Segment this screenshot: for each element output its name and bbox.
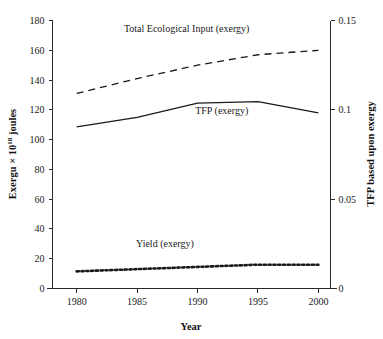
y-axis-title-tail: joules [7, 109, 18, 138]
left-tick-label: 20 [35, 253, 45, 264]
right-axis-ticks: 00.050.10.15 [331, 15, 357, 294]
left-tick-label: 160 [30, 45, 45, 56]
right-tick-label: 0.05 [339, 194, 357, 205]
left-tick-label: 100 [30, 134, 45, 145]
left-tick-label: 0 [40, 283, 45, 294]
y2-axis-title: TFP based upon exergy [365, 101, 376, 207]
series-group [77, 50, 319, 271]
left-tick-label: 120 [30, 104, 45, 115]
series-label: Total Ecological Input (exergy) [124, 23, 249, 35]
series-label: Yield (exergy) [136, 238, 194, 250]
y-axis-title: Exergu × 1018 joules [6, 109, 18, 199]
figure-container: 020406080100120140160180 00.050.10.15 19… [0, 0, 383, 339]
x-tick-label: 1980 [67, 296, 87, 307]
left-tick-label: 40 [35, 223, 45, 234]
left-tick-label: 80 [35, 164, 45, 175]
left-axis-ticks: 020406080100120140160180 [30, 15, 53, 294]
left-tick-label: 60 [35, 194, 45, 205]
right-tick-label: 0.1 [339, 104, 352, 115]
series-line [77, 50, 319, 93]
series-label: TFP (exergy) [195, 105, 248, 117]
x-axis-title: Year [181, 321, 202, 332]
line-chart: 020406080100120140160180 00.050.10.15 19… [0, 0, 383, 339]
y-axis-title-main: Exergu × 10 [7, 145, 18, 199]
right-tick-label: 0.15 [339, 15, 357, 26]
x-tick-label: 1990 [188, 296, 208, 307]
series-line [77, 265, 319, 272]
right-tick-label: 0 [339, 283, 344, 294]
x-tick-label: 1995 [248, 296, 268, 307]
x-tick-label: 1985 [127, 296, 147, 307]
left-tick-label: 140 [30, 75, 45, 86]
series-labels-group: Total Ecological Input (exergy)TFP (exer… [124, 23, 249, 249]
left-tick-label: 180 [30, 15, 45, 26]
x-axis-ticks: 19801985199019952000 [67, 289, 329, 307]
x-tick-label: 2000 [308, 296, 328, 307]
